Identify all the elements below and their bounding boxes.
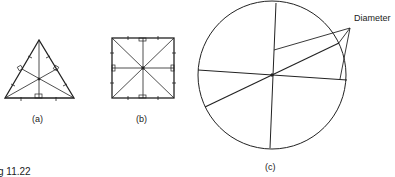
panel-label-a: (a)	[32, 114, 43, 124]
diameter-annotation: Diameter	[354, 13, 391, 23]
square-figure	[110, 36, 176, 100]
circle-figure	[198, 1, 350, 149]
panel-label-b: (b)	[136, 114, 147, 124]
figure-canvas	[0, 0, 395, 177]
figure-caption: g 11.22	[0, 166, 31, 177]
panel-label-c: (c)	[265, 162, 276, 172]
triangle-figure	[5, 40, 74, 101]
